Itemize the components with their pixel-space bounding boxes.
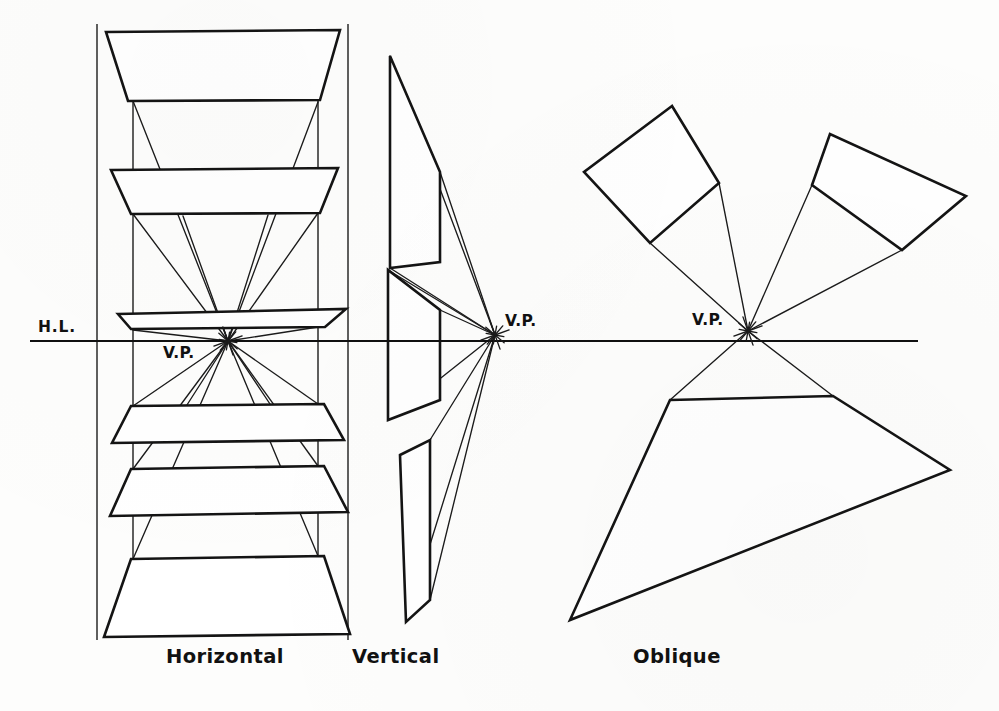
caption-vertical: Vertical: [352, 645, 439, 668]
group-oblique-ray: [748, 185, 812, 331]
v-plane-1: [390, 56, 440, 268]
vp-horizontal-label: V.P.: [163, 344, 195, 362]
group-horizontal-ray: [228, 102, 318, 341]
h-plane-4: [112, 404, 344, 443]
h-plane-2: [111, 168, 338, 214]
v-plane-2: [388, 270, 440, 420]
caption-oblique: Oblique: [633, 645, 721, 668]
caption-group: HorizontalVerticalOblique: [166, 645, 721, 668]
construction-frame-lines: [97, 24, 348, 640]
h-plane-6: [104, 556, 350, 637]
group-horizontal-ray: [133, 101, 228, 341]
o-plane-2: [812, 134, 966, 250]
convergence-rays: [133, 56, 902, 622]
v-plane-3: [400, 440, 430, 622]
vp-vertical-label: V.P.: [505, 312, 537, 330]
vp-oblique-label: V.P.: [692, 311, 724, 329]
group-oblique-ray: [748, 250, 902, 331]
group-vertical-ray: [440, 172, 495, 335]
h-plane-3: [118, 309, 346, 329]
o-plane-1: [584, 106, 719, 243]
h-plane-5: [110, 466, 348, 516]
caption-horizontal: Horizontal: [166, 645, 284, 668]
o-plane-3: [570, 396, 950, 620]
horizon-line-label: H.L.: [38, 318, 76, 336]
perspective-diagram: H.L. V.P.V.P.V.P. HorizontalVerticalObli…: [0, 0, 999, 711]
diagram-canvas: H.L. V.P.V.P.V.P. HorizontalVerticalObli…: [0, 0, 999, 711]
h-plane-1: [106, 30, 340, 101]
group-horizontal-ray: [133, 330, 228, 341]
